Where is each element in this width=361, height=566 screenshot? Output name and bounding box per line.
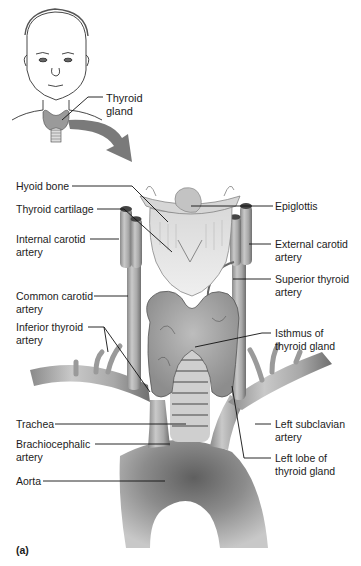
inset-thyroid [43,110,69,142]
label-superior-thyroid-artery: Superior thyroid artery [275,273,349,298]
label-left-subclavian-artery: Left subclavian artery [275,418,345,443]
label-external-carotid-artery: External carotid artery [275,238,348,263]
label-brachiocephalic-artery: Brachiocephalic artery [16,438,90,463]
label-hyoid-bone: Hyoid bone [16,180,69,193]
aorta-shape [120,440,268,548]
label-thyroid-gland-inset: Thyroid gland [106,92,143,117]
label-common-carotid-artery: Common carotid artery [16,290,93,315]
thyroid-anatomy-figure: Thyroid gland Hyoid bone Thyroid cartila… [0,0,361,566]
label-inferior-thyroid-artery: Inferior thyroid artery [16,321,83,346]
label-trachea: Trachea [16,418,54,431]
panel-label: (a) [16,544,29,557]
label-isthmus-of-thyroid-gland: Isthmus of thyroid gland [275,327,335,352]
inset-head [12,9,102,120]
label-thyroid-cartilage: Thyroid cartilage [16,203,94,216]
thyroid-cartilage-shape [150,206,232,296]
label-epiglottis: Epiglottis [275,200,318,213]
pointer-arrow [68,120,132,162]
label-internal-carotid-artery: Internal carotid artery [16,233,85,258]
label-left-lobe-of-thyroid-gland: Left lobe of thyroid gland [275,452,335,477]
label-aorta: Aorta [16,475,41,488]
